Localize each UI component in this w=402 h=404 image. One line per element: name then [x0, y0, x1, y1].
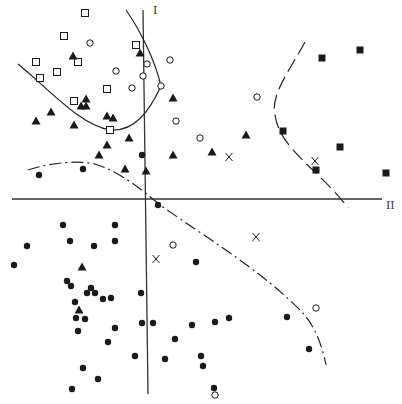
- open-square-marker: [133, 42, 140, 49]
- filled-circle-marker: [100, 296, 106, 302]
- open-circle-marker: [173, 118, 179, 124]
- filled-circle-marker: [11, 262, 17, 268]
- filled-circle-marker: [139, 152, 145, 158]
- open-square-marker: [82, 10, 89, 17]
- open-circle-marker: [170, 242, 176, 248]
- open-square-marker: [33, 59, 40, 66]
- open-square-marker: [54, 69, 61, 76]
- filled-square-marker: [280, 128, 287, 135]
- axis-label-II: II: [386, 199, 395, 212]
- filled-circle-marker: [112, 325, 118, 331]
- open-circle-marker: [140, 73, 146, 79]
- filled-circle-marker: [211, 385, 217, 391]
- filled-circle-marker: [105, 339, 111, 345]
- filled-square-marker: [383, 170, 390, 177]
- open-circle-marker: [129, 85, 135, 91]
- dash-dot-boundary-curve: [28, 162, 326, 365]
- filled-circle-marker: [82, 316, 88, 322]
- open-circle-marker: [113, 68, 119, 74]
- filled-triangle-marker: [103, 112, 112, 120]
- filled-circle-marker: [75, 328, 81, 334]
- filled-circle-marker: [193, 259, 199, 265]
- open-square-marker: [37, 75, 44, 82]
- filled-circle-marker: [69, 386, 75, 392]
- filled-triangle-marker: [95, 151, 104, 159]
- filled-triangle-marker: [121, 165, 130, 173]
- filled-circle-marker: [80, 365, 86, 371]
- filled-circle-marker: [306, 346, 312, 352]
- x-mark-marker: [226, 153, 233, 161]
- filled-circle-marker: [24, 243, 30, 249]
- filled-triangle-marker: [78, 263, 87, 271]
- x-mark-marker: [253, 233, 260, 241]
- filled-circle-marker: [139, 320, 145, 326]
- filled-circle-marker: [150, 320, 156, 326]
- dashed-boundary-curve: [274, 42, 348, 208]
- open-circle-marker: [254, 94, 260, 100]
- filled-circle-marker: [162, 356, 168, 362]
- scatter-diagram: [0, 0, 402, 404]
- filled-circle-marker: [138, 290, 144, 296]
- filled-circle-marker: [73, 315, 79, 321]
- filled-circle-marker: [60, 222, 66, 228]
- open-circle-marker: [158, 83, 164, 89]
- filled-circle-marker: [112, 222, 118, 228]
- filled-circle-marker: [91, 243, 97, 249]
- filled-circle-marker: [200, 363, 206, 369]
- filled-triangle-marker: [208, 148, 217, 156]
- filled-circle-marker: [198, 353, 204, 359]
- data-markers: [11, 10, 390, 399]
- open-square-marker: [61, 33, 68, 40]
- filled-circle-marker: [172, 336, 178, 342]
- open-square-marker: [75, 59, 82, 66]
- open-square-marker: [107, 127, 114, 134]
- axis-label-I: I: [153, 4, 157, 17]
- filled-triangle-marker: [47, 108, 56, 116]
- filled-circle-marker: [36, 172, 42, 178]
- filled-circle-marker: [80, 166, 86, 172]
- open-circle-marker: [197, 135, 203, 141]
- filled-circle-marker: [92, 290, 98, 296]
- open-circle-marker: [313, 305, 319, 311]
- filled-circle-marker: [64, 278, 70, 284]
- filled-circle-marker: [132, 353, 138, 359]
- filled-circle-marker: [226, 315, 232, 321]
- filled-circle-marker: [108, 295, 114, 301]
- open-circle-marker: [167, 57, 173, 63]
- filled-triangle-marker: [125, 134, 134, 142]
- filled-circle-marker: [68, 283, 74, 289]
- filled-triangle-marker: [82, 95, 91, 103]
- filled-triangle-marker: [70, 121, 79, 129]
- boundary-curves: [18, 10, 348, 365]
- filled-triangle-marker: [169, 94, 178, 102]
- filled-circle-marker: [95, 376, 101, 382]
- filled-circle-marker: [212, 319, 218, 325]
- filled-triangle-marker: [103, 141, 112, 149]
- open-square-marker: [71, 98, 78, 105]
- filled-circle-marker: [284, 314, 290, 320]
- filled-triangle-marker: [32, 117, 41, 125]
- filled-triangle-marker: [69, 52, 78, 60]
- filled-triangle-marker: [142, 167, 151, 175]
- filled-circle-marker: [84, 290, 90, 296]
- open-square-marker: [104, 86, 111, 93]
- x-mark-marker: [312, 157, 319, 165]
- solid-boundary-curve: [18, 10, 161, 130]
- filled-circle-marker: [189, 322, 195, 328]
- filled-square-marker: [319, 55, 326, 62]
- filled-triangle-marker: [169, 151, 178, 159]
- axes: [12, 10, 382, 394]
- filled-triangle-marker: [75, 306, 84, 314]
- open-circle-marker: [212, 392, 218, 398]
- filled-circle-marker: [88, 285, 94, 291]
- open-circle-marker: [87, 40, 93, 46]
- filled-circle-marker: [67, 238, 73, 244]
- filled-circle-marker: [72, 299, 78, 305]
- filled-square-marker: [313, 167, 320, 174]
- filled-circle-marker: [112, 238, 118, 244]
- filled-triangle-marker: [242, 131, 251, 139]
- filled-circle-marker: [155, 202, 161, 208]
- open-circle-marker: [144, 61, 150, 67]
- x-mark-marker: [153, 255, 160, 263]
- filled-square-marker: [357, 47, 364, 54]
